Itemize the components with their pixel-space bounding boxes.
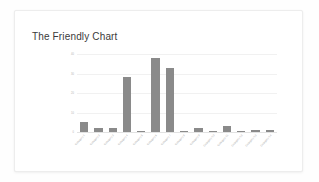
chart-card: The Friendly Chart 403020100 Category 1C… (14, 10, 303, 172)
bar[interactable] (137, 131, 145, 132)
x-axis-tick-label: Category 14 (260, 134, 272, 147)
y-axis-tick-label: 20 (71, 92, 74, 95)
bar[interactable] (180, 131, 188, 132)
x-axis-tick-label: Category 1 (75, 134, 86, 146)
x-axis-tick-label: Category 11 (217, 134, 229, 147)
bar-series (77, 54, 277, 132)
bar-slot (206, 54, 220, 132)
x-axis-tick-label: Category 9 (189, 134, 200, 146)
x-axis-tick-label: Category 13 (245, 134, 257, 147)
bar-chart: 403020100 Category 1Category 2Category 3… (55, 51, 285, 163)
x-axis-tick-label: Category 5 (132, 134, 143, 146)
bar[interactable] (209, 131, 217, 132)
bar-slot (106, 54, 120, 132)
x-axis-tick-label: Category 3 (104, 134, 115, 146)
bar[interactable] (223, 126, 231, 132)
bar-slot (120, 54, 134, 132)
x-axis-tick-label: Category 2 (89, 134, 100, 146)
bar-slot (263, 54, 277, 132)
bar-slot (134, 54, 148, 132)
x-axis-tick-label: Category 12 (231, 134, 243, 147)
y-axis-tick-label: 30 (71, 72, 74, 75)
bar-slot (77, 54, 91, 132)
x-axis-tick-label: Category 10 (203, 134, 215, 147)
bar[interactable] (266, 130, 274, 132)
bar[interactable] (237, 131, 245, 132)
x-axis-tick-label: Category 7 (161, 134, 172, 146)
bar-slot (248, 54, 262, 132)
bar[interactable] (80, 122, 88, 132)
x-axis-tick-label: Category 6 (146, 134, 157, 146)
plot-area: 403020100 (77, 54, 277, 132)
bar[interactable] (194, 128, 202, 132)
bar[interactable] (251, 130, 259, 132)
screenshot-root: The Friendly Chart 403020100 Category 1C… (0, 0, 319, 182)
bar[interactable] (94, 128, 102, 132)
bar-slot (163, 54, 177, 132)
bar-slot (191, 54, 205, 132)
y-axis-tick-label: 0 (72, 131, 74, 134)
bar-slot (148, 54, 162, 132)
page-title: The Friendly Chart (32, 31, 118, 43)
bar-slot (177, 54, 191, 132)
bar-slot (234, 54, 248, 132)
bar[interactable] (109, 128, 117, 132)
x-axis-labels: Category 1Category 2Category 3Category 4… (77, 133, 277, 163)
bar-slot (91, 54, 105, 132)
bar[interactable] (151, 58, 159, 132)
x-axis-tick-label: Category 4 (118, 134, 129, 146)
bar[interactable] (123, 77, 131, 132)
bar[interactable] (166, 68, 174, 132)
y-axis-tick-label: 40 (71, 53, 74, 56)
y-axis-tick-label: 10 (71, 111, 74, 114)
x-axis-tick-label: Category 8 (175, 134, 186, 146)
bar-slot (220, 54, 234, 132)
